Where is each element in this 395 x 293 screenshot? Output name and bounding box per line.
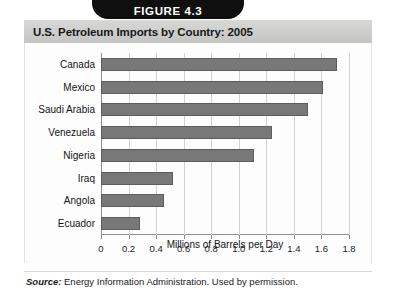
bar-row: Ecuador [101, 212, 349, 235]
category-label: Mexico [63, 81, 101, 94]
figure-title-band: U.S. Petroleum Imports by Country: 2005 [24, 20, 372, 43]
plot-region: 00.20.40.60.81.01.21.41.61.8 CanadaMexic… [101, 53, 349, 235]
source-note: Source: Energy Information Administratio… [26, 276, 298, 287]
category-label: Venezuela [48, 126, 101, 139]
bar-row: Canada [101, 53, 349, 76]
bar-row: Iraq [101, 167, 349, 190]
bar [101, 172, 173, 185]
x-axis-title: Millions of Barrels per Day [101, 239, 349, 250]
category-label: Canada [60, 58, 101, 71]
gridline [349, 53, 350, 235]
figure-number-tab: FIGURE 4.3 [92, 0, 244, 19]
bar-row: Mexico [101, 76, 349, 99]
category-label: Ecuador [58, 217, 101, 230]
page-title: U.S. Petroleum Imports by Country: 2005 [24, 26, 253, 38]
bar-row: Saudi Arabia [101, 99, 349, 122]
bar [101, 149, 254, 162]
bar-row: Angola [101, 190, 349, 213]
category-label: Nigeria [63, 149, 101, 162]
figure-number-label: FIGURE 4.3 [134, 5, 203, 17]
bar [101, 81, 323, 94]
bar [101, 103, 308, 116]
source-keyword: Source: [26, 276, 61, 287]
figure-container: FIGURE 4.3 U.S. Petroleum Imports by Cou… [0, 0, 395, 293]
bar [101, 58, 337, 71]
axis-tick [349, 235, 350, 239]
category-label: Iraq [78, 172, 101, 185]
bar-row: Nigeria [101, 144, 349, 167]
category-label: Angola [64, 194, 101, 207]
category-label: Saudi Arabia [38, 103, 101, 116]
bar [101, 126, 272, 139]
bar [101, 194, 164, 207]
source-divider [24, 271, 372, 272]
source-text: Energy Information Administration. Used … [64, 276, 298, 287]
bar-row: Venezuela [101, 121, 349, 144]
bar [101, 217, 140, 230]
chart-area: 00.20.40.60.81.01.21.41.61.8 CanadaMexic… [24, 43, 372, 263]
